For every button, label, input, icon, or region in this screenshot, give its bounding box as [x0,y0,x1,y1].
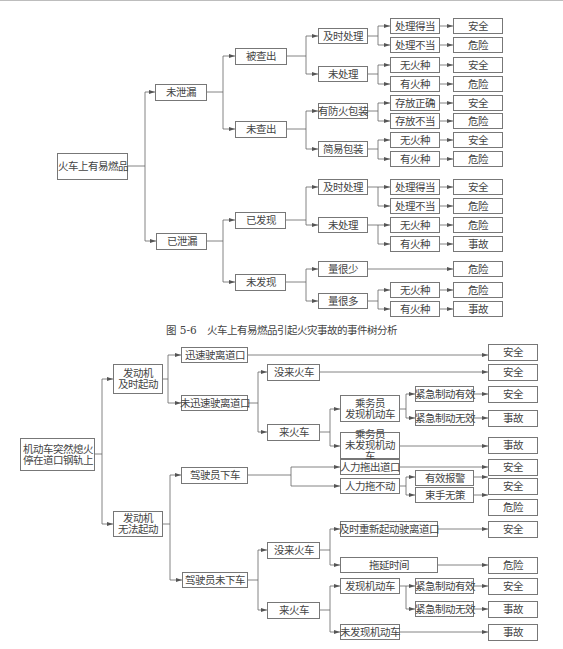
node-label: 已发现 [246,215,276,226]
outcome-label: 危险 [468,285,488,296]
node-label: 乘务员 [355,398,385,409]
node-label: 没来火车 [274,367,314,378]
node-found-2: 发现机动车 [340,578,400,594]
root-event-box: 火车上有易燃品 [57,153,128,180]
node-label: 及时重新起动驶离道口 [339,524,439,535]
node-engine-failed: 发动机 无法起动 [113,511,163,537]
node-push-out: 人力拖出道口 [340,459,400,475]
node-label: 简易包装 [323,144,363,155]
outcome-label: 事故 [503,627,523,638]
outcome-box: 危险 [453,76,503,92]
node-label: 束手无策 [425,490,465,501]
node-alarm-ok: 有效报警 [415,470,474,486]
outcome-box: 事故 [488,410,538,427]
outcome-label: 危险 [468,79,488,90]
node-l4: 无火种 [390,217,440,233]
node-helpless: 束手无策 [415,487,474,503]
outcome-label: 安全 [503,389,523,400]
outcome-label: 事故 [503,413,523,424]
node-delay: 拖延时间 [340,557,438,573]
outcome-box: 安全 [488,344,538,361]
node-l3: 及时处理 [318,179,368,195]
outcome-box: 安全 [488,578,538,595]
node-label: 没来火车 [274,545,314,556]
node-l3: 量很多 [318,293,368,309]
node-label: 紧急制动无效 [415,604,475,615]
node-l4: 处理不当 [390,37,440,53]
outcome-box: 危险 [453,217,503,233]
node-label: 有火种 [400,154,430,165]
node-crew-not-found: 乘务员 未发现机动车 [340,432,400,459]
outcome-box: 危险 [453,113,503,129]
node-label: 紧急制动无效 [415,413,475,424]
outcome-box: 安全 [488,478,538,495]
outcome-box: 事故 [488,437,538,454]
node-not-found: 未发现 [235,274,286,291]
node-label: 及时处理 [323,31,363,42]
outcome-label: 安全 [503,367,523,378]
outcome-label: 安全 [503,581,523,592]
node-push-fail: 人力拖不动 [340,478,400,494]
outcome-box: 安全 [488,386,538,403]
outcome-label: 安全 [503,481,523,492]
outcome-box: 危险 [488,499,538,516]
node-label: 未发现机动车 [340,627,400,638]
node-label: 无法起动 [118,524,158,535]
outcome-box: 危险 [488,557,538,574]
node-label: 有火种 [400,79,430,90]
node-label: 来火车 [279,605,309,616]
outcome-box: 危险 [453,198,503,214]
node-label: 未处理 [328,220,358,231]
node-crew-found: 乘务员 发现机动车 [340,395,400,422]
outcome-box: 安全 [453,57,503,73]
node-label: 有效报警 [425,473,465,484]
node-label: 来火车 [279,427,309,438]
node-l4: 有火种 [390,301,440,317]
node-label: 被查出 [246,51,276,62]
node-label: 紧急制动有效 [415,581,475,592]
node-label: 迅速驶离道口 [185,350,245,361]
outcome-box: 安全 [488,521,538,538]
node-restart: 及时重新起动驶离道口 [340,521,438,537]
outcome-label: 安全 [468,135,488,146]
node-label: 发现机动车 [345,581,395,592]
node-brake-ok-2: 紧急制动有效 [415,578,474,594]
node-label: 未查出 [246,124,276,135]
node-not-detected: 未查出 [235,121,287,138]
node-l3: 量很少 [318,261,368,277]
outcome-box: 安全 [453,18,503,34]
outcome-label: 安全 [468,60,488,71]
outcome-label: 事故 [468,304,488,315]
root-event-box-2: 机动车突然熄火 停在道口钢轨上 [20,438,95,471]
node-no-train-2: 没来火车 [267,542,320,559]
node-driver-in: 驾驶员未下车 [182,572,248,588]
node-label: 未发现 [246,277,276,288]
outcome-label: 危险 [468,201,488,212]
outcome-label: 安全 [468,21,488,32]
outcome-label: 危险 [503,502,523,513]
root-event-label: 火车上有易燃品 [58,161,128,172]
node-train-coming: 来火车 [267,424,320,441]
node-label: 及时起动 [118,379,158,390]
node-label: 有火种 [400,239,430,250]
outcome-label: 危险 [468,264,488,275]
node-no-train: 没来火车 [267,364,320,381]
node-brake-fail: 紧急制动无效 [415,410,474,426]
node-l3: 简易包装 [318,141,368,157]
node-l4: 无火种 [390,282,440,298]
node-label: 有火种 [400,304,430,315]
outcome-box: 安全 [488,364,538,381]
node-l4: 存放正确 [390,95,440,111]
node-l4: 有火种 [390,151,440,167]
node-brake-fail-2: 紧急制动无效 [415,601,474,617]
node-label: 紧急制动有效 [415,389,475,400]
outcome-box: 事故 [488,624,538,641]
node-label: 未泄漏 [166,87,196,98]
node-label: 拖延时间 [369,560,409,571]
node-label: 机动车突然熄火 [23,444,93,455]
node-train-coming-2: 来火车 [267,602,320,619]
outcome-label: 危险 [468,116,488,127]
node-l4: 无火种 [390,57,440,73]
figure-caption: 图 5-6 火车上有易燃品引起火灾事故的事件树分析 [0,322,563,337]
outcome-label: 危险 [468,154,488,165]
